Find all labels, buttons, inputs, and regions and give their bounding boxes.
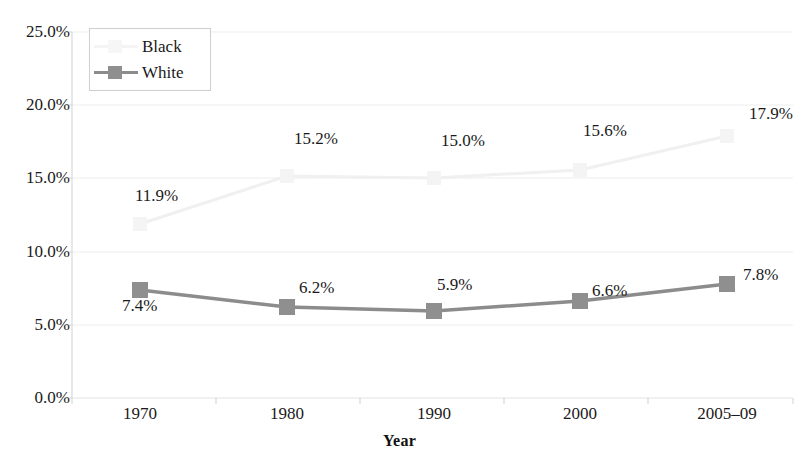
data-label-white-1970: 7.4% xyxy=(122,297,157,314)
x-tick-2000: 2000 xyxy=(520,404,640,424)
data-label-black-1970: 11.9% xyxy=(135,187,178,204)
data-label-white-2005-09: 7.8% xyxy=(743,266,778,283)
y-tick-label: 20.0% xyxy=(6,96,70,113)
data-label-black-2005-09: 17.9% xyxy=(749,105,793,122)
legend-swatch-white-icon xyxy=(90,62,142,82)
x-tick-1990: 1990 xyxy=(374,404,494,424)
series-white xyxy=(132,276,735,319)
legend-label-black: Black xyxy=(142,38,182,55)
y-tick-label: 15.0% xyxy=(6,169,70,186)
y-tick-label: 10.0% xyxy=(6,243,70,260)
data-label-black-2000: 15.6% xyxy=(583,122,627,139)
series-black xyxy=(133,129,734,231)
x-tick-1970: 1970 xyxy=(80,404,200,424)
y-tick-label: 25.0% xyxy=(6,23,70,40)
legend-item-black[interactable]: Black xyxy=(90,33,212,59)
legend-label-white: White xyxy=(142,64,184,81)
data-label-white-1990: 5.9% xyxy=(437,276,472,293)
line-chart: 25.0% 20.0% 15.0% 10.0% 5.0% 0.0% 1970 1… xyxy=(0,0,799,458)
y-tick-label: 0.0% xyxy=(6,389,70,406)
data-label-white-2000: 6.6% xyxy=(592,282,627,299)
legend-swatch-black-icon xyxy=(90,36,142,56)
data-label-black-1990: 15.0% xyxy=(441,132,485,149)
data-label-white-1980: 6.2% xyxy=(299,279,334,296)
data-label-black-1980: 15.2% xyxy=(294,130,338,147)
x-tick-1980: 1980 xyxy=(227,404,347,424)
legend[interactable]: Black White xyxy=(89,28,211,91)
y-tick-label: 5.0% xyxy=(6,316,70,333)
legend-item-white[interactable]: White xyxy=(90,59,212,85)
y-axis xyxy=(66,32,72,398)
x-axis-title: Year xyxy=(0,432,799,450)
x-tick-2005-09: 2005–09 xyxy=(667,404,787,424)
